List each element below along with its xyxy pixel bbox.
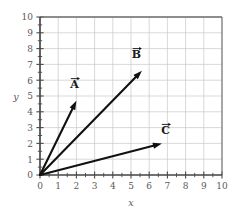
coordinate-plane-chart: 012345678910 012345678910 x y ABC bbox=[0, 0, 252, 224]
y-tick-label: 3 bbox=[27, 123, 33, 133]
y-axis-label: y bbox=[12, 91, 19, 102]
y-tick-label: 2 bbox=[27, 139, 33, 149]
vector-plot-figure: 012345678910 012345678910 x y ABC bbox=[0, 0, 252, 224]
x-tick-label: 0 bbox=[37, 181, 43, 191]
x-tick-label: 10 bbox=[216, 181, 228, 191]
x-tick-label: 4 bbox=[110, 181, 116, 191]
x-tick-label: 2 bbox=[74, 181, 80, 191]
y-tick-label: 8 bbox=[27, 44, 33, 54]
y-tick-label: 0 bbox=[27, 170, 33, 180]
vector-label-a: A bbox=[69, 78, 79, 91]
x-tick-label: 1 bbox=[55, 181, 61, 191]
x-tick-label: 6 bbox=[146, 181, 152, 191]
x-tick-label: 7 bbox=[165, 181, 171, 191]
y-tick-label: 5 bbox=[27, 91, 33, 101]
vector-label-c: C bbox=[161, 124, 170, 137]
y-tick-label: 4 bbox=[27, 107, 33, 117]
x-tick-label: 8 bbox=[183, 181, 189, 191]
y-tick-label: 1 bbox=[27, 155, 33, 165]
vector-label-b: B bbox=[132, 48, 141, 61]
x-tick-label: 9 bbox=[201, 181, 207, 191]
y-tick-label: 10 bbox=[22, 12, 34, 22]
y-tick-label: 7 bbox=[27, 60, 33, 70]
x-tick-label: 3 bbox=[92, 181, 98, 191]
x-tick-label: 5 bbox=[128, 181, 134, 191]
x-axis-label: x bbox=[128, 197, 134, 208]
y-tick-label: 6 bbox=[27, 76, 33, 86]
y-tick-label: 9 bbox=[27, 28, 33, 38]
